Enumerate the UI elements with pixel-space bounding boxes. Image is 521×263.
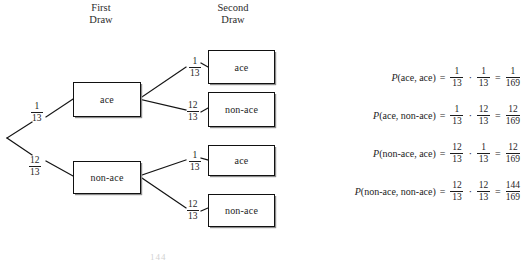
- fraction-denominator: 13: [187, 211, 199, 221]
- equation-result: 12 169: [506, 142, 520, 164]
- edge-hook-nonace-ace: [201, 158, 208, 160]
- node-second-draw-ace-upper[interactable]: ace: [208, 50, 275, 84]
- equation-result: 144 169: [506, 180, 520, 202]
- equation-result: 1 169: [506, 66, 520, 88]
- fraction-denominator: 13: [450, 154, 463, 164]
- fraction-denominator: 13: [450, 192, 463, 202]
- fraction-denominator: 169: [506, 78, 520, 88]
- fraction-denominator: 13: [477, 116, 490, 126]
- factor-two: 1 13: [477, 66, 490, 88]
- fraction-denominator: 13: [189, 162, 201, 172]
- edge-ace-to-nonace: [139, 99, 186, 110]
- fraction-denominator: 13: [477, 192, 490, 202]
- fraction-denominator: 13: [29, 167, 41, 177]
- edge-root-to-nonace: [7, 138, 32, 155]
- multiplication-dot: ·: [468, 147, 472, 159]
- equation-lhs: P(non-ace, non-ace): [355, 186, 436, 197]
- multiplication-dot: ·: [468, 109, 472, 121]
- equation-lhs: P(ace, ace): [391, 72, 435, 83]
- equation-args: (non-ace, ace): [379, 148, 436, 159]
- node-label: non-ace: [225, 104, 258, 115]
- prob-first-nonace: 12 13: [29, 155, 41, 177]
- fraction-denominator: 169: [506, 192, 520, 202]
- fraction-numerator: 1: [31, 101, 43, 111]
- fraction-numerator: 12: [450, 180, 463, 190]
- node-second-draw-nonace-lower[interactable]: non-ace: [208, 194, 275, 227]
- fraction-denominator: 13: [477, 78, 490, 88]
- fraction-numerator: 144: [506, 180, 520, 190]
- edge-root-ace-tail: [46, 99, 73, 117]
- edge-hook-nonace-nonace: [201, 208, 208, 211]
- fraction-numerator: 1: [450, 104, 463, 114]
- factor-one: 12 13: [450, 180, 463, 202]
- prob-second-nonace-lower: 12 13: [187, 199, 199, 221]
- equation-args: (ace, ace): [398, 72, 436, 83]
- fraction-denominator: 13: [477, 154, 490, 164]
- equals-sign-two: =: [495, 72, 501, 83]
- equation-nonace-nonace: P(non-ace, non-ace) = 12 13 · 12 13 = 14…: [296, 172, 521, 210]
- equals-sign: =: [440, 72, 446, 83]
- fraction-numerator: 1: [477, 66, 490, 76]
- header-first-draw: First Draw: [62, 2, 140, 25]
- fraction-numerator: 12: [450, 142, 463, 152]
- equation-list: P(ace, ace) = 1 13 · 1 13 = 1 169 P(ace,…: [296, 58, 521, 210]
- fraction-denominator: 13: [450, 78, 463, 88]
- factor-one: 1 13: [450, 66, 463, 88]
- fraction-numerator: 1: [450, 66, 463, 76]
- edge-root-nonace-tail: [46, 161, 73, 176]
- node-first-draw-nonace[interactable]: non-ace: [73, 161, 141, 194]
- factor-one: 1 13: [450, 104, 463, 126]
- node-second-draw-nonace-upper[interactable]: non-ace: [208, 92, 275, 127]
- fraction-denominator: 169: [506, 154, 520, 164]
- prob-second-nonace-upper: 12 13: [187, 100, 199, 122]
- page-scan-artifact: 144: [150, 252, 167, 262]
- equals-sign: =: [440, 110, 446, 121]
- equals-sign-two: =: [495, 186, 501, 197]
- edge-nonace-to-ace: [139, 160, 186, 176]
- fraction-numerator: 12: [187, 199, 199, 209]
- fraction-numerator: 12: [187, 100, 199, 110]
- fraction-denominator: 13: [31, 113, 43, 123]
- equals-sign: =: [440, 148, 446, 159]
- factor-two: 12 13: [477, 104, 490, 126]
- fraction-denominator: 13: [450, 116, 463, 126]
- prob-first-ace: 1 13: [31, 101, 43, 123]
- edge-root-to-ace: [7, 122, 32, 138]
- fraction-numerator: 1: [477, 142, 490, 152]
- fraction-numerator: 1: [189, 56, 201, 66]
- equation-ace-ace: P(ace, ace) = 1 13 · 1 13 = 1 169: [296, 58, 521, 96]
- multiplication-dot: ·: [468, 71, 472, 83]
- node-label: ace: [235, 62, 249, 73]
- fraction-numerator: 1: [189, 150, 201, 160]
- equals-sign-two: =: [495, 110, 501, 121]
- prob-second-ace-upper: 1 13: [189, 56, 201, 78]
- edge-hook-ace-ace: [201, 63, 208, 67]
- node-label: ace: [235, 155, 249, 166]
- fraction-numerator: 12: [506, 142, 520, 152]
- factor-two: 12 13: [477, 180, 490, 202]
- multiplication-dot: ·: [468, 185, 472, 197]
- equation-args: (ace, non-ace): [379, 110, 436, 121]
- node-label: ace: [100, 94, 114, 105]
- node-label: non-ace: [225, 205, 258, 216]
- equation-result: 12 169: [506, 104, 520, 126]
- node-second-draw-ace-lower[interactable]: ace: [208, 145, 275, 176]
- equation-lhs: P(ace, non-ace): [373, 110, 436, 121]
- edge-ace-to-ace: [139, 67, 186, 99]
- fraction-numerator: 12: [29, 155, 41, 165]
- figure-canvas: First Draw Second Draw 1 13 12 13 ace no…: [0, 0, 521, 263]
- node-first-draw-ace[interactable]: ace: [73, 82, 141, 117]
- fraction-denominator: 13: [189, 68, 201, 78]
- fraction-numerator: 12: [506, 104, 520, 114]
- equals-sign-two: =: [495, 148, 501, 159]
- factor-two: 1 13: [477, 142, 490, 164]
- fraction-denominator: 13: [187, 112, 199, 122]
- fraction-denominator: 169: [506, 116, 520, 126]
- equation-lhs: P(non-ace, ace): [373, 148, 436, 159]
- equals-sign: =: [440, 186, 446, 197]
- fraction-numerator: 12: [477, 180, 490, 190]
- prob-second-ace-lower: 1 13: [189, 150, 201, 172]
- fraction-numerator: 1: [506, 66, 520, 76]
- equation-args: (non-ace, non-ace): [361, 186, 436, 197]
- edge-nonace-to-nonace: [139, 176, 186, 208]
